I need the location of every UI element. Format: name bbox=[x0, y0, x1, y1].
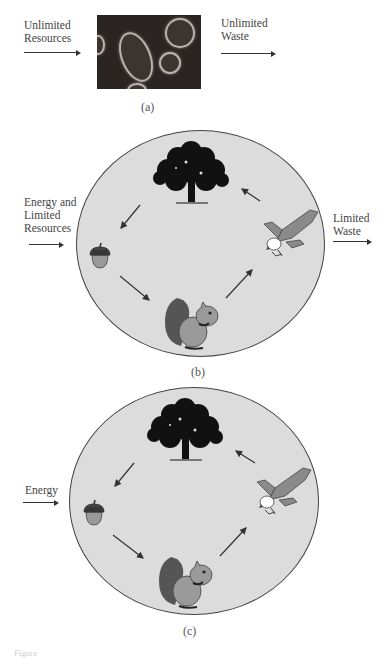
eagle-to-tree-arrow-icon bbox=[236, 451, 255, 463]
caption-c: (c) bbox=[183, 624, 196, 639]
squirrel-to-eagle-arrow-icon bbox=[220, 528, 246, 556]
acorn-to-squirrel-arrow-icon bbox=[113, 535, 143, 558]
cycle-arrows-c bbox=[0, 0, 386, 658]
tree-to-acorn-arrow-icon bbox=[115, 463, 134, 486]
figure-label: Figure bbox=[14, 648, 38, 658]
